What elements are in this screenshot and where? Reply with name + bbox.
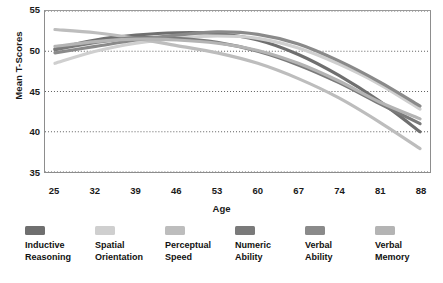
x-tick-label: 32 <box>78 185 112 196</box>
legend-label: Inductive Reasoning <box>25 240 95 263</box>
legend-label: Numeric Ability <box>235 240 305 263</box>
legend-swatch <box>95 226 115 235</box>
y-tick-label: 40 <box>14 126 40 137</box>
y-axis-ticks: 5550454035 <box>8 0 40 225</box>
legend-item[interactable]: Spatial Orientation <box>95 226 165 263</box>
legend-item[interactable]: Perceptual Speed <box>165 226 235 263</box>
chart-legend: Inductive ReasoningSpatial OrientationPe… <box>0 226 443 283</box>
chart-page: Mean T-Scores 5550454035 Age 25323946536… <box>0 0 443 283</box>
x-tick-label: 67 <box>282 185 316 196</box>
x-tick-label: 25 <box>37 185 71 196</box>
legend-swatch <box>165 226 185 235</box>
x-tick-label: 46 <box>159 185 193 196</box>
legend-label: Verbal Memory <box>375 240 443 263</box>
legend-label: Perceptual Speed <box>165 240 235 263</box>
y-tick-label: 35 <box>14 167 40 178</box>
legend-swatch <box>305 226 325 235</box>
line-chart: Mean T-Scores 5550454035 Age 25323946536… <box>0 0 443 225</box>
plot-area <box>44 10 431 173</box>
y-tick-label: 55 <box>14 4 40 15</box>
x-tick-label: 74 <box>322 185 356 196</box>
legend-label: Verbal Ability <box>305 240 375 263</box>
legend-label: Spatial Orientation <box>95 240 165 263</box>
y-tick-label: 45 <box>14 86 40 97</box>
x-tick-label: 60 <box>241 185 275 196</box>
legend-swatch <box>25 226 45 235</box>
x-axis-label: Age <box>0 203 443 214</box>
x-tick-label: 88 <box>404 185 438 196</box>
legend-swatch <box>375 226 395 235</box>
series-line <box>55 37 420 123</box>
legend-item[interactable]: Verbal Memory <box>375 226 443 263</box>
legend-item[interactable]: Verbal Ability <box>305 226 375 263</box>
x-tick-label: 53 <box>200 185 234 196</box>
y-tick-label: 50 <box>14 45 40 56</box>
legend-item[interactable]: Numeric Ability <box>235 226 305 263</box>
x-tick-label: 39 <box>119 185 153 196</box>
legend-swatch <box>235 226 255 235</box>
legend-item[interactable]: Inductive Reasoning <box>25 226 95 263</box>
plot-svg <box>45 11 430 172</box>
x-tick-label: 81 <box>363 185 397 196</box>
